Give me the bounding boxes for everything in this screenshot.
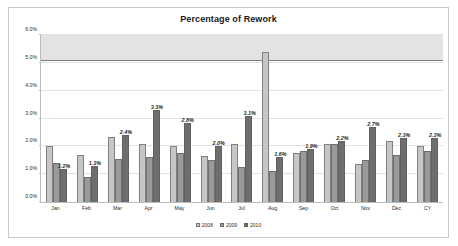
bar-group: 2.8% xyxy=(165,35,196,202)
x-axis-label: Nov xyxy=(350,205,381,219)
bar[interactable]: 2.3% xyxy=(431,138,438,202)
legend-item[interactable]: 2008 xyxy=(196,222,213,228)
y-axis-label: 5.0% xyxy=(25,54,37,60)
bar[interactable]: 2.4% xyxy=(122,135,129,202)
bar-group: 1.9% xyxy=(288,35,319,202)
legend-label: 2008 xyxy=(202,222,213,228)
y-axis-label: 1.0% xyxy=(25,165,37,171)
x-axis-label: May xyxy=(164,205,195,219)
bar[interactable]: 1.9% xyxy=(307,149,314,202)
x-axis-label: Mar xyxy=(102,205,133,219)
bar[interactable] xyxy=(115,159,122,202)
bar[interactable]: 2.0% xyxy=(215,146,222,202)
x-axis-label: Feb xyxy=(71,205,102,219)
bar[interactable] xyxy=(417,146,424,202)
bar[interactable]: 2.8% xyxy=(184,123,191,202)
bar-groups: 1.2%1.3%2.4%3.3%2.8%2.0%3.1%1.6%1.9%2.2%… xyxy=(41,35,443,202)
chart-title: Percentage of Rework xyxy=(9,14,448,24)
bar-group: 1.6% xyxy=(257,35,288,202)
bar[interactable]: 2.7% xyxy=(369,127,376,202)
bar[interactable]: 1.3% xyxy=(91,166,98,202)
x-axis-label: Sep xyxy=(288,205,319,219)
y-axis-label: 2.0% xyxy=(25,137,37,143)
bar[interactable] xyxy=(170,146,177,202)
bar[interactable] xyxy=(231,144,238,202)
bar-group: 1.2% xyxy=(41,35,72,202)
y-axis-label: 3.0% xyxy=(25,110,37,116)
bar-data-label: 2.0% xyxy=(213,140,225,146)
x-axis-label: Apr xyxy=(133,205,164,219)
bar[interactable] xyxy=(77,155,84,202)
bar[interactable] xyxy=(177,153,184,202)
bar-data-label: 2.4% xyxy=(120,129,132,135)
bar[interactable] xyxy=(201,156,208,202)
bar-group: 3.3% xyxy=(134,35,165,202)
bar-group: 2.0% xyxy=(196,35,227,202)
chart-container: Percentage of Rework 0.0%1.0%2.0%3.0%4.0… xyxy=(8,7,449,238)
bar-group: 2.3% xyxy=(381,35,412,202)
bar[interactable] xyxy=(300,151,307,202)
bar[interactable] xyxy=(108,137,115,202)
bar-data-label: 2.3% xyxy=(429,132,441,138)
legend-swatch-icon xyxy=(220,223,224,227)
bar-data-label: 1.6% xyxy=(274,151,286,157)
bar[interactable] xyxy=(208,160,215,202)
bar[interactable] xyxy=(53,163,60,202)
bar[interactable]: 3.3% xyxy=(153,110,160,202)
x-axis-label: Aug xyxy=(257,205,288,219)
bar[interactable] xyxy=(269,171,276,202)
x-axis: JanFebMarAprMayJunJulAugSepOctNovDecCY xyxy=(40,205,443,219)
bar-group: 2.7% xyxy=(350,35,381,202)
bar[interactable] xyxy=(46,146,53,202)
bar[interactable] xyxy=(139,144,146,202)
chart-legend: 200820092010 xyxy=(9,222,448,228)
bar[interactable]: 1.2% xyxy=(60,169,67,202)
bar[interactable]: 1.6% xyxy=(276,157,283,202)
bar-data-label: 3.1% xyxy=(243,110,255,116)
x-axis-label: Oct xyxy=(319,205,350,219)
bar[interactable] xyxy=(84,177,91,202)
bar[interactable] xyxy=(324,144,331,202)
legend-item[interactable]: 2009 xyxy=(220,222,237,228)
bar-data-label: 1.3% xyxy=(89,160,101,166)
bar[interactable] xyxy=(331,144,338,202)
bar-group: 2.3% xyxy=(412,35,443,202)
y-axis-label: 4.0% xyxy=(25,82,37,88)
bar-data-label: 2.8% xyxy=(182,117,194,123)
x-axis-label: Jan xyxy=(40,205,71,219)
bar[interactable] xyxy=(424,151,431,202)
bar[interactable] xyxy=(386,141,393,202)
x-axis-label: Jun xyxy=(195,205,226,219)
legend-label: 2009 xyxy=(226,222,237,228)
bar-data-label: 2.3% xyxy=(398,132,410,138)
bar-group: 1.3% xyxy=(72,35,103,202)
legend-swatch-icon xyxy=(196,223,200,227)
bar[interactable]: 2.2% xyxy=(338,141,345,202)
plot-area: 0.0%1.0%2.0%3.0%4.0%5.0%6.0% 1.2%1.3%2.4… xyxy=(40,35,443,203)
bar[interactable]: 2.3% xyxy=(400,138,407,202)
bar[interactable] xyxy=(293,153,300,202)
x-axis-label: Jul xyxy=(226,205,257,219)
y-axis-label: 0.0% xyxy=(25,193,37,199)
bar[interactable] xyxy=(238,167,245,202)
bar-data-label: 2.2% xyxy=(336,135,348,141)
bar-group: 2.2% xyxy=(319,35,350,202)
bar-data-label: 1.9% xyxy=(305,143,317,149)
bar[interactable] xyxy=(393,155,400,202)
y-axis-label: 6.0% xyxy=(25,26,37,32)
bar-group: 3.1% xyxy=(227,35,258,202)
bar[interactable] xyxy=(262,52,269,202)
x-axis-label: Dec xyxy=(381,205,412,219)
legend-item[interactable]: 2010 xyxy=(244,222,261,228)
bar-data-label: 2.7% xyxy=(367,121,379,127)
bar[interactable]: 3.1% xyxy=(245,116,252,202)
bar[interactable] xyxy=(355,164,362,202)
x-axis-label: CY xyxy=(412,205,443,219)
legend-swatch-icon xyxy=(244,223,248,227)
legend-label: 2010 xyxy=(250,222,261,228)
bar[interactable] xyxy=(362,160,369,202)
bar-group: 2.4% xyxy=(103,35,134,202)
bar-data-label: 3.3% xyxy=(151,104,163,110)
bar-data-label: 1.2% xyxy=(58,163,70,169)
bar[interactable] xyxy=(146,157,153,202)
